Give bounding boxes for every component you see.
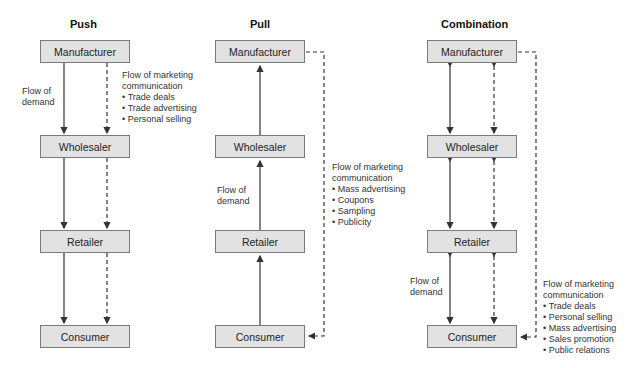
combination-retailer-box: Retailer <box>427 230 517 253</box>
combination-manufacturer-box: Manufacturer <box>427 40 517 63</box>
comm-item: Public relations <box>543 345 616 356</box>
combination-wholesaler-box: Wholesaler <box>427 135 517 158</box>
combination-demand-label: Flow of demand <box>410 276 443 298</box>
push-comm-label: Flow of marketing communication Trade de… <box>122 70 197 125</box>
push-wholesaler-box: Wholesaler <box>40 135 130 158</box>
push-title: Push <box>70 18 97 30</box>
comm-item: Trade deals <box>122 92 197 103</box>
comm-item: Personal selling <box>122 114 197 125</box>
pull-consumer-box: Consumer <box>215 325 305 348</box>
push-retailer-box: Retailer <box>40 230 130 253</box>
combination-title: Combination <box>441 18 508 30</box>
comm-item: Coupons <box>332 195 405 206</box>
push-demand-label: Flow of demand <box>22 86 55 108</box>
pull-wholesaler-box: Wholesaler <box>215 135 305 158</box>
comm-item: Personal selling <box>543 312 616 323</box>
pull-retailer-box: Retailer <box>215 230 305 253</box>
combination-comm-label: Flow of marketing communication Trade de… <box>543 279 616 356</box>
combination-consumer-box: Consumer <box>427 325 517 348</box>
comm-item: Sales promotion <box>543 334 616 345</box>
comm-item: Sampling <box>332 206 405 217</box>
comm-item: Publicity <box>332 217 405 228</box>
comm-item: Trade advertising <box>122 103 197 114</box>
comm-item: Mass advertising <box>332 184 405 195</box>
pull-title: Pull <box>250 18 270 30</box>
push-manufacturer-box: Manufacturer <box>40 40 130 63</box>
pull-manufacturer-box: Manufacturer <box>215 40 305 63</box>
pull-comm-label: Flow of marketing communication Mass adv… <box>332 162 405 228</box>
comm-item: Mass advertising <box>543 323 616 334</box>
push-consumer-box: Consumer <box>40 325 130 348</box>
comm-item: Trade deals <box>543 301 616 312</box>
pull-demand-label: Flow of demand <box>217 185 250 207</box>
